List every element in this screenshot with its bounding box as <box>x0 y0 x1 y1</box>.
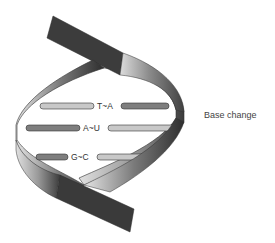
base-pair-a-u: A~U <box>26 123 178 133</box>
base-pair-label: G~C <box>71 152 89 162</box>
dna-helix-diagram: T~A A~U G~C <box>0 0 275 243</box>
base-pair-t-a: T~A <box>40 101 169 111</box>
base-pair-label: T~A <box>97 101 113 111</box>
top-strand <box>47 16 184 112</box>
base-change-label: Base change <box>204 110 257 120</box>
base-pair-label: A~U <box>83 123 100 133</box>
